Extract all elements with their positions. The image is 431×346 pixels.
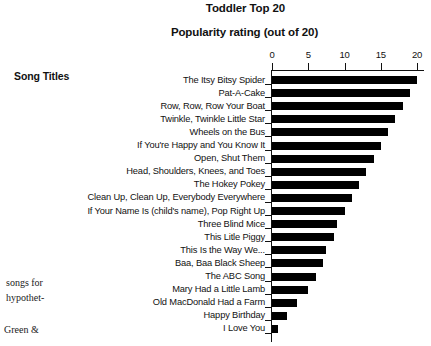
bar-category-label: Clean Up, Clean Up, Everybody Everywhere <box>88 192 265 202</box>
bar-category-label: Old MacDonald Had a Farm <box>153 297 265 307</box>
y-tick-mark <box>265 241 272 242</box>
bar <box>272 207 345 215</box>
bar-row: I Love You <box>0 323 431 336</box>
x-tick-mark <box>345 63 346 70</box>
bar-row: Baa, Baa Black Sheep <box>0 257 431 270</box>
bar <box>272 168 366 176</box>
bar-category-label: This Litle Piggy <box>204 232 265 242</box>
y-tick-mark <box>265 189 272 190</box>
y-tick-mark <box>265 307 272 308</box>
bar-row: Old MacDonald Had a Farm <box>0 297 431 310</box>
bar-row: Wheels on the Bus <box>0 126 431 139</box>
bar <box>272 259 323 267</box>
bar-category-label: If Your Name Is (child's name), Pop Righ… <box>87 206 265 216</box>
y-tick-mark <box>265 163 272 164</box>
y-tick-mark <box>265 202 272 203</box>
y-tick-mark <box>265 333 272 334</box>
bar-category-label: Wheels on the Bus <box>190 127 265 137</box>
bar-row: This Is the Way We... <box>0 244 431 257</box>
x-tick-label: 20 <box>405 49 429 60</box>
y-tick-mark <box>265 110 272 111</box>
y-tick-mark <box>265 176 272 177</box>
bar-category-label: Pat-A-Cake <box>218 88 265 98</box>
bar-category-label: The ABC Song <box>205 271 265 281</box>
margin-text-fragment-1: songs for <box>6 277 43 288</box>
y-tick-mark <box>265 215 272 216</box>
y-tick-mark <box>265 281 272 282</box>
x-tick-mark <box>308 63 309 70</box>
bar <box>272 76 417 84</box>
x-tick-label: 15 <box>369 49 393 60</box>
bar-category-label: Open, Shut Them <box>194 153 265 163</box>
bar-category-label: The Itsy Bitsy Spider <box>183 75 265 85</box>
bar <box>272 155 374 163</box>
y-tick-mark <box>265 123 272 124</box>
bar-category-label: Baa, Baa Black Sheep <box>175 258 265 268</box>
bar-category-label: Happy Birthday <box>204 310 265 320</box>
margin-text-fragment-2: hypothet- <box>6 292 44 303</box>
bar-row: If You're Happy and You Know It <box>0 140 431 153</box>
bar-category-label: Twinkle, Twinkle Little Star <box>160 114 265 124</box>
bar <box>272 89 410 97</box>
bar <box>272 286 308 294</box>
bar-category-label: I Love You <box>223 323 265 333</box>
x-tick-label: 5 <box>296 49 320 60</box>
bar-row: If Your Name Is (child's name), Pop Righ… <box>0 205 431 218</box>
x-tick-label: 10 <box>333 49 357 60</box>
x-tick-mark <box>381 63 382 70</box>
bar-category-label: Row, Row, Row Your Boat <box>160 101 265 111</box>
x-tick-label-group: 05101520 <box>0 49 431 61</box>
bar <box>272 312 287 320</box>
y-tick-mark <box>265 228 272 229</box>
x-axis-line <box>271 70 424 71</box>
bar-row: Head, Shoulders, Knees, and Toes <box>0 166 431 179</box>
x-tick-mark <box>272 63 273 70</box>
y-tick-mark <box>265 320 272 321</box>
y-tick-mark <box>265 136 272 137</box>
bar-category-label: The Hokey Pokey <box>194 179 265 189</box>
bar <box>272 273 316 281</box>
bar <box>272 181 359 189</box>
bar <box>272 246 326 254</box>
bar-category-label: Mary Had a Little Lamb <box>172 284 265 294</box>
y-tick-mark <box>265 150 272 151</box>
bar <box>272 194 352 202</box>
bar-row: Twinkle, Twinkle Little Star <box>0 113 431 126</box>
bar <box>272 102 403 110</box>
y-tick-mark <box>265 84 272 85</box>
y-tick-mark <box>265 254 272 255</box>
bar-row: Open, Shut Them <box>0 153 431 166</box>
bar <box>272 142 381 150</box>
y-tick-mark <box>265 294 272 295</box>
bar-row: This Litle Piggy <box>0 231 431 244</box>
margin-text-fragment-3: Green & <box>4 324 39 335</box>
bar-row: The ABC Song <box>0 271 431 284</box>
bar <box>272 115 395 123</box>
y-tick-mark <box>265 267 272 268</box>
x-tick-label: 0 <box>260 49 284 60</box>
bar-row: Three Blind Mice <box>0 218 431 231</box>
bar-chart-plot-area: 05101520 The Itsy Bitsy SpiderPat-A-Cake… <box>0 0 431 346</box>
y-tick-mark <box>265 97 272 98</box>
bar-row: Clean Up, Clean Up, Everybody Everywhere <box>0 192 431 205</box>
bar-category-label: This Is the Way We... <box>180 245 265 255</box>
bar-row: Happy Birthday <box>0 310 431 323</box>
bar-row: Pat-A-Cake <box>0 87 431 100</box>
bar-row: Row, Row, Row Your Boat <box>0 100 431 113</box>
bar <box>272 299 297 307</box>
bar <box>272 128 388 136</box>
bar <box>272 233 334 241</box>
bar <box>272 220 337 228</box>
bar-category-label: Three Blind Mice <box>198 219 265 229</box>
bar <box>272 325 278 333</box>
bar-row: Mary Had a Little Lamb <box>0 284 431 297</box>
x-tick-mark <box>417 63 418 70</box>
bar-category-label: Head, Shoulders, Knees, and Toes <box>126 166 265 176</box>
bar-category-label: If You're Happy and You Know It <box>137 140 265 150</box>
bar-row: The Hokey Pokey <box>0 179 431 192</box>
bar-row: The Itsy Bitsy Spider <box>0 74 431 87</box>
